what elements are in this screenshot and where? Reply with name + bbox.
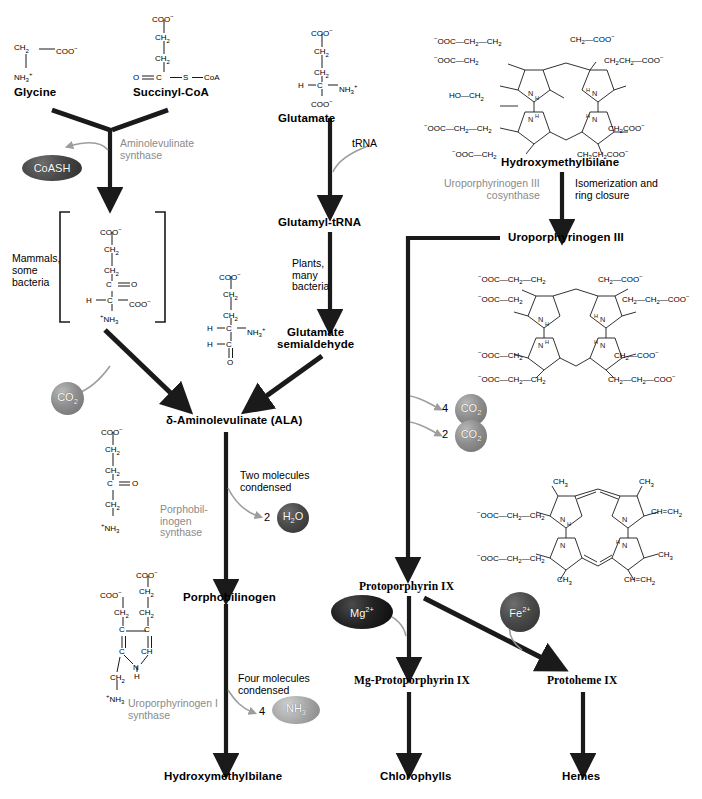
svg-text:N: N <box>560 541 565 550</box>
ala-coo: COO− <box>101 425 123 437</box>
succinylcoa-to-junction-arrow <box>112 110 168 130</box>
pbg-ch2-c: CH2 <box>139 609 154 620</box>
annotation-trna: tRNA <box>352 138 377 150</box>
semialdehyde-ch2-b: CH2 <box>223 312 238 323</box>
note-plants-many-bacteria: Plants, many bacteria <box>292 258 329 293</box>
svg-text:N: N <box>538 315 543 324</box>
glycine-nh3: NH3+ <box>14 70 32 84</box>
enzyme-aminolevulinate-synthase: Aminolevulinate synthase <box>120 138 194 161</box>
pbg-nh3: +NH3 <box>106 692 124 706</box>
hmb-sub-ho: HO—CH2 <box>449 92 484 103</box>
glutamate-coo-bottom: COO− <box>311 97 333 109</box>
semialdehyde-nh3: NH3+ <box>247 325 265 339</box>
svg-text:N: N <box>538 341 543 350</box>
intermediate-c: C <box>106 281 112 289</box>
succinylcoa-c: C <box>156 74 162 82</box>
coefficient-co2-2: 2 <box>442 428 448 440</box>
byproduct-co2-left: CO2 <box>51 382 84 415</box>
intermediate-coo: COO− <box>100 225 122 237</box>
node-delta-aminolevulinate[interactable]: δ-Aminolevulinate (ALA) <box>166 414 302 426</box>
svg-text:H: H <box>586 87 590 93</box>
succinylcoa-coa: CoA <box>204 74 220 82</box>
intermediate-to-ala-arrow <box>105 330 178 400</box>
note-isomerization-ring-closure: Isomerization and ring closure <box>575 178 658 201</box>
succinylcoa-ch2-a: CH2 <box>155 34 170 45</box>
semialdehyde-coo: COO− <box>219 270 241 282</box>
proto-sub-ch3-1: CH3 <box>553 478 568 489</box>
succinylcoa-o: O <box>133 74 139 82</box>
proto-sub-vinyl-1: CH=CH2 <box>651 508 682 519</box>
svg-text:N: N <box>622 541 627 550</box>
uro-sub-3: CH2—COO− <box>598 272 643 286</box>
semialdehyde-h2: H <box>207 341 213 349</box>
svg-text:N: N <box>528 115 533 124</box>
intermediate-c2: C <box>107 297 113 305</box>
pathway-diagram: CH2 COO− NH3+ Glycine COO− CH2 CH2 O C S… <box>0 0 702 799</box>
pbg-c3: C <box>119 648 125 656</box>
node-hydroxymethylbilane-left[interactable]: Hydroxymethylbilane <box>164 770 282 782</box>
svg-text:H: H <box>545 321 549 327</box>
hmb-sub-2: −OOC—CH2 <box>434 53 479 67</box>
note-mammals-some-bacteria: Mammals, some bacteria <box>12 252 60 288</box>
byproduct-coash: CoASH <box>22 155 82 181</box>
semialdehyde-to-ala-arrow <box>258 356 322 402</box>
node-mg-protoporphyrin-ix[interactable]: Mg-Protoporphyrin IX <box>354 674 470 686</box>
proto-sub-ch3-3: CH3 <box>658 551 673 562</box>
succinylcoa-ch2-b: CH2 <box>155 55 170 66</box>
svg-text:H: H <box>535 113 539 119</box>
note-two-molecules-condensed: Two molecules condensed <box>240 470 309 493</box>
hmb-sub-4: CH2CH2—COO− <box>604 53 664 67</box>
enzyme-porphobilinogen-synthase: Porphobil- inogen synthase <box>160 504 208 539</box>
pbg-c2: C <box>144 626 150 634</box>
semialdehyde-c2: C <box>226 341 232 349</box>
cofactor-fe: Fe2+ <box>500 592 540 632</box>
uro-sub-2: −OOC—CH2 <box>478 292 523 306</box>
node-hydroxymethylbilane-right[interactable]: Hydroxymethylbilane <box>501 156 619 168</box>
succinylcoa-bonds <box>142 20 203 79</box>
uro-sub-5: −OOC—CH2 <box>478 348 523 362</box>
semialdehyde-ch2-a: CH2 <box>223 291 238 302</box>
intermediate-o: O <box>131 281 137 289</box>
hmb-sub-6: −OOC—CH2 <box>452 147 497 161</box>
uro-sub-4: CH2—CH2—COO− <box>622 292 690 306</box>
pbg-n: N <box>133 664 139 672</box>
svg-text:N: N <box>560 515 565 524</box>
node-protoheme-ix[interactable]: Protoheme IX <box>547 674 617 686</box>
svg-text:N: N <box>600 341 605 350</box>
node-chlorophylls[interactable]: Chlorophylls <box>380 770 451 782</box>
co2-release-arrow-2 <box>410 422 438 434</box>
pbg-coo-top: COO− <box>136 568 158 580</box>
proto-sub-ch3-2: CH3 <box>639 478 654 489</box>
node-protoporphyrin-ix[interactable]: Protoporphyrin IX <box>359 580 454 592</box>
node-glutamyl-trna[interactable]: Glutamyl-tRNA <box>278 216 361 228</box>
svg-text:H: H <box>594 313 598 319</box>
co2-release-arrow-4 <box>410 396 438 408</box>
node-uroporphyrinogen-iii[interactable]: Uroporphyrinogen III <box>508 231 624 243</box>
node-glutamate-semialdehyde[interactable]: Glutamate semialdehyde <box>277 326 354 350</box>
enzyme-uroporphyrinogen-iii-cosynthase: Uroporphyrinogen III cosynthase <box>444 178 540 201</box>
coefficient-co2-4: 4 <box>442 402 448 414</box>
glutamate-ch2-a: CH2 <box>314 48 329 59</box>
glutamate-bonds <box>308 34 338 96</box>
glutamate-coo-top: COO− <box>311 26 333 38</box>
coefficient-nh3: 4 <box>259 705 265 717</box>
node-succinyl-coa[interactable]: Succinyl-CoA <box>133 86 209 98</box>
svg-text:N: N <box>592 115 597 124</box>
ala-ch2-c: CH2 <box>105 501 120 512</box>
hmb-sub-5: −OOC—CH2—CH2 <box>424 121 492 135</box>
pbg-coo-left: COO− <box>100 588 122 600</box>
node-glycine[interactable]: Glycine <box>14 86 56 98</box>
semialdehyde-c1: C <box>226 325 232 333</box>
hmb-sub-7: CH2COO− <box>608 121 645 135</box>
intermediate-coo2: COO− <box>129 297 151 309</box>
svg-text:N: N <box>622 515 627 524</box>
svg-text:N: N <box>592 89 597 98</box>
coash-release-arrow <box>70 143 108 150</box>
node-glutamate[interactable]: Glutamate <box>278 112 335 124</box>
pbg-c1: C <box>119 626 125 634</box>
pbg-ch2-a: CH2 <box>139 588 154 599</box>
node-porphobilinogen[interactable]: Porphobilinogen <box>183 591 276 603</box>
node-hemes[interactable]: Hemes <box>562 770 600 782</box>
proto-sub-vinyl-2: CH=CH2 <box>624 576 655 587</box>
intermediate-ch2-a: CH2 <box>104 246 119 257</box>
